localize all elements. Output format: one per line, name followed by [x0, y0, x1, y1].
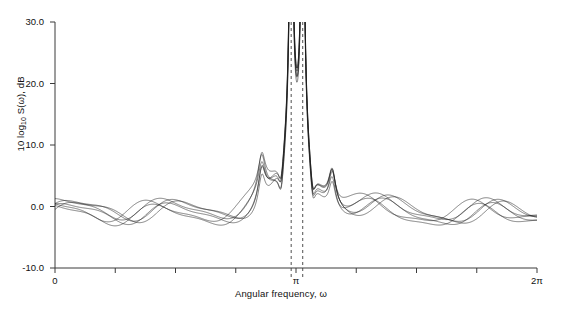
- spectral-density-figure: 10 log10 S(ω), dB Angular frequency, ω -…: [0, 0, 562, 311]
- spectrum-trace: [55, 0, 537, 221]
- spectrum-trace: [55, 0, 537, 225]
- y-tick-label: -10.0: [8, 262, 44, 273]
- spectrum-trace: [55, 0, 537, 223]
- y-tick-label: 0.0: [8, 201, 44, 212]
- y-axis-label: 10 log10 S(ω), dB: [15, 49, 27, 179]
- plot-canvas: [0, 0, 562, 311]
- spectrum-trace: [55, 0, 537, 220]
- spectrum-trace: [55, 0, 537, 222]
- x-tick-label: 0: [40, 275, 70, 286]
- trace-group: [55, 0, 537, 226]
- x-tick-label: 2π: [522, 275, 552, 286]
- y-tick-label: 10.0: [8, 139, 44, 150]
- x-tick-label: π: [281, 275, 311, 286]
- y-tick-label: 30.0: [8, 16, 44, 27]
- y-axis-label-subscript: 10: [20, 117, 27, 125]
- spectrum-trace: [55, 0, 537, 226]
- y-tick-label: 20.0: [8, 78, 44, 89]
- x-axis-label: Angular frequency, ω: [0, 288, 562, 299]
